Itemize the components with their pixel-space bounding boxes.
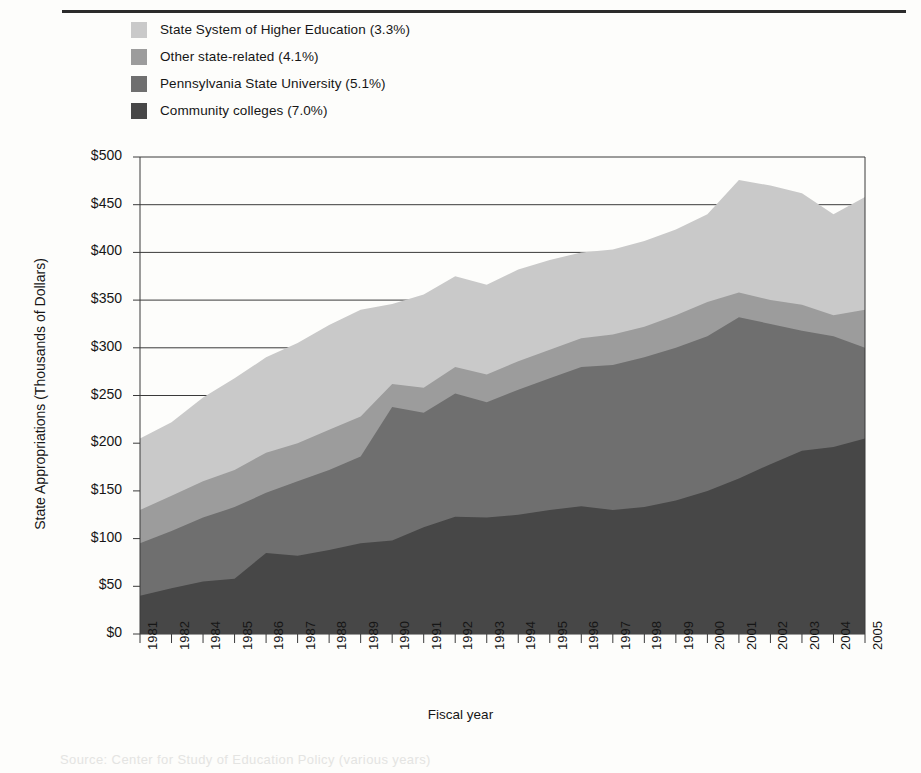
x-axis-tick-label: 1989 (366, 621, 381, 650)
legend-swatch-icon (131, 103, 147, 119)
y-axis-tick-label: $450 (52, 195, 122, 211)
y-axis-tick-label: $100 (52, 529, 122, 545)
x-axis-tick-label: 1994 (523, 621, 538, 650)
x-axis-tick-label: 1981 (145, 621, 160, 650)
legend-swatch-icon (131, 22, 147, 38)
x-axis-tick-label: 1988 (334, 621, 349, 650)
y-axis-tick-label: $300 (52, 338, 122, 354)
legend-swatch-icon (131, 49, 147, 65)
y-axis-tick-label: $350 (52, 290, 122, 306)
x-axis-tick-label: 1985 (240, 621, 255, 650)
x-axis-tick-label: 2004 (838, 621, 853, 650)
x-axis-tick-label: 1986 (271, 621, 286, 650)
figure-caption: Source: Center for Study of Education Po… (60, 752, 660, 770)
legend-item-label: Pennsylvania State University (5.1%) (160, 76, 386, 91)
legend-item-community_colleges: Community colleges (7.0%) (131, 97, 410, 124)
y-axis-tick-label: $400 (52, 242, 122, 258)
x-axis-tick-label: 1990 (397, 621, 412, 650)
x-axis-title: Fiscal year (0, 707, 921, 722)
legend-item-label: Community colleges (7.0%) (160, 103, 328, 118)
chart-legend: State System of Higher Education (3.3%)O… (131, 16, 410, 124)
x-axis-tick-label: 1991 (429, 621, 444, 650)
area-band (140, 180, 865, 634)
x-axis-tick-label: 1996 (586, 621, 601, 650)
y-axis-tick-label: $250 (52, 386, 122, 402)
y-axis-tick-label: $200 (52, 433, 122, 449)
y-axis-tick-label: $150 (52, 481, 122, 497)
y-axis-tick-label: $500 (52, 147, 122, 163)
x-axis-tick-label: 1995 (555, 621, 570, 650)
y-axis-tick-label: $0 (52, 624, 122, 640)
legend-item-penn_state: Pennsylvania State University (5.1%) (131, 70, 410, 97)
area-band (140, 292, 865, 634)
x-axis-tick-label: 2001 (744, 621, 759, 650)
x-axis-tick-label: 2000 (712, 621, 727, 650)
x-axis-tick-label: 1993 (492, 621, 507, 650)
x-axis-tick-label: 1984 (208, 621, 223, 650)
legend-swatch-icon (131, 76, 147, 92)
legend-item-label: Other state-related (4.1%) (160, 49, 319, 64)
area-band (140, 438, 865, 634)
legend-item-label: State System of Higher Education (3.3%) (160, 22, 410, 37)
top-divider-rule (62, 10, 906, 13)
x-axis-tick-label: 1992 (460, 621, 475, 650)
x-axis-tick-label: 2003 (807, 621, 822, 650)
legend-item-other_state_related: Other state-related (4.1%) (131, 43, 410, 70)
y-axis-title: State Appropriations (Thousands of Dolla… (32, 184, 48, 604)
x-axis-tick-label: 1987 (303, 621, 318, 650)
x-axis-tick-label: 2005 (870, 621, 885, 650)
x-axis-tick-label: 2002 (775, 621, 790, 650)
x-axis-tick-label: 1982 (177, 621, 192, 650)
x-axis-tick-label: 1997 (618, 621, 633, 650)
x-axis-tick-label: 1998 (649, 621, 664, 650)
x-axis-tick-label: 1999 (681, 621, 696, 650)
y-axis-tick-label: $50 (52, 576, 122, 592)
area-band (140, 317, 865, 634)
legend-item-state_system: State System of Higher Education (3.3%) (131, 16, 410, 43)
